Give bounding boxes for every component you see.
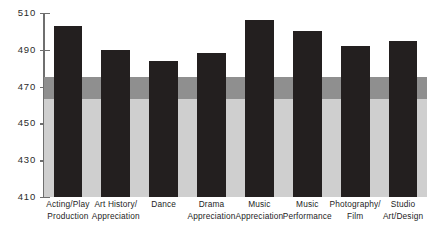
bar[interactable] bbox=[149, 61, 178, 197]
y-tick-label: 410 bbox=[2, 190, 36, 203]
y-tick-label: 510 bbox=[2, 6, 36, 19]
y-tick-label: 470 bbox=[2, 80, 36, 93]
bar[interactable] bbox=[293, 31, 322, 197]
x-axis-label: StudioArt/Design bbox=[373, 199, 430, 222]
x-axis-label-line: Studio bbox=[373, 199, 430, 211]
y-tick-label: 450 bbox=[2, 116, 36, 129]
bar[interactable] bbox=[101, 50, 130, 197]
x-axis-labels: Acting/PlayProductionArt History/Appreci… bbox=[44, 199, 427, 239]
bar[interactable] bbox=[245, 20, 274, 197]
x-axis-label-line: Appreciation bbox=[86, 211, 145, 223]
bar[interactable] bbox=[341, 46, 370, 197]
bar[interactable] bbox=[54, 26, 83, 197]
bar-chart: 410430450470490510 Acting/PlayProduction… bbox=[0, 0, 430, 241]
bar[interactable] bbox=[197, 53, 226, 197]
bars-layer bbox=[44, 13, 427, 197]
x-axis-label-line: Art/Design bbox=[373, 211, 430, 223]
bar[interactable] bbox=[389, 41, 418, 197]
plot-area bbox=[44, 13, 427, 197]
y-tick-label: 430 bbox=[2, 153, 36, 166]
y-tick-label: 490 bbox=[2, 43, 36, 56]
